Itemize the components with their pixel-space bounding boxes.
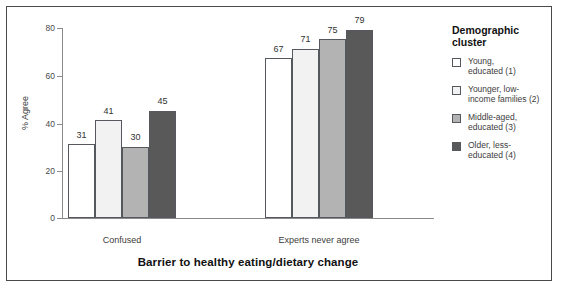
y-tick-mark-0: [57, 218, 62, 219]
legend-label-cluster-3-line1: Middle-aged,: [468, 112, 517, 122]
legend-swatch-cluster-3: [452, 114, 461, 123]
y-axis-title: % Agree: [20, 83, 30, 143]
legend-label-cluster-1-line2: educated (1): [468, 66, 516, 76]
x-axis-title: Barrier to healthy eating/dietary change: [62, 256, 434, 268]
bar-experts-cluster-4: [346, 30, 373, 218]
y-tick-mark-80: [57, 28, 62, 29]
legend-label-cluster-2: Younger, low- income families (2): [468, 85, 554, 104]
bar-experts-cluster-3: [319, 39, 346, 218]
legend-label-cluster-1-line1: Young,: [468, 56, 494, 66]
y-tick-label-40: 40: [15, 120, 55, 128]
y-tick-label-40-wrap: 40: [10, 120, 55, 128]
bar-value-confused-cluster-4: 45: [142, 96, 183, 106]
bar-confused-cluster-1: [68, 144, 95, 218]
y-tick-label-20-wrap: 20: [10, 167, 55, 175]
legend-label-cluster-4-line1: Older, less-: [468, 140, 511, 150]
y-tick-label-60-wrap: 60: [10, 72, 55, 80]
bar-value-confused-cluster-2: 41: [88, 106, 129, 116]
bar-confused-cluster-3: [122, 147, 149, 219]
legend-label-cluster-3: Middle-aged, educated (3): [468, 113, 554, 132]
y-axis-line: [62, 28, 63, 219]
legend-label-cluster-3-line2: educated (3): [468, 122, 516, 132]
x-group-label-experts: Experts never agree: [259, 235, 379, 245]
y-tick-label-20: 20: [15, 167, 55, 175]
y-tick-label-80: 80: [15, 24, 55, 32]
legend: Demographic cluster Young, educated (1) …: [452, 24, 556, 169]
legend-title: Demographic cluster: [452, 24, 530, 48]
legend-item-cluster-2[interactable]: Younger, low- income families (2): [452, 85, 556, 104]
legend-title-line1: Demographic: [452, 24, 519, 36]
y-tick-mark-40: [57, 124, 62, 125]
legend-label-cluster-1: Young, educated (1): [468, 57, 554, 76]
y-tick-label-0-wrap: 0: [10, 214, 55, 222]
legend-swatch-cluster-4: [452, 142, 461, 151]
legend-item-cluster-1[interactable]: Young, educated (1): [452, 57, 556, 76]
y-tick-mark-60: [57, 76, 62, 77]
legend-label-cluster-4-line2: educated (4): [468, 150, 516, 160]
bar-experts-cluster-1: [265, 58, 292, 218]
y-tick-label-80-wrap: 80: [10, 24, 55, 32]
legend-label-cluster-4: Older, less- educated (4): [468, 141, 554, 160]
y-tick-label-0: 0: [15, 214, 55, 222]
legend-title-line2: cluster: [452, 36, 486, 48]
legend-swatch-cluster-1: [452, 58, 461, 67]
y-tick-mark-20: [57, 171, 62, 172]
legend-item-cluster-4[interactable]: Older, less- educated (4): [452, 141, 556, 160]
legend-swatch-cluster-2: [452, 86, 461, 95]
legend-label-cluster-2-line2: income families (2): [468, 94, 539, 104]
bar-confused-cluster-4: [149, 111, 176, 218]
x-group-label-confused: Confused: [62, 235, 182, 245]
x-axis-line: [62, 218, 434, 219]
y-tick-label-60: 60: [15, 72, 55, 80]
chart-figure: % Agree 80 60 40 20 0 31 41 30: [0, 0, 561, 295]
bar-experts-cluster-2: [292, 49, 319, 218]
bar-value-experts-cluster-4: 79: [339, 15, 380, 25]
legend-item-cluster-3[interactable]: Middle-aged, educated (3): [452, 113, 556, 132]
legend-label-cluster-2-line1: Younger, low-: [468, 84, 519, 94]
